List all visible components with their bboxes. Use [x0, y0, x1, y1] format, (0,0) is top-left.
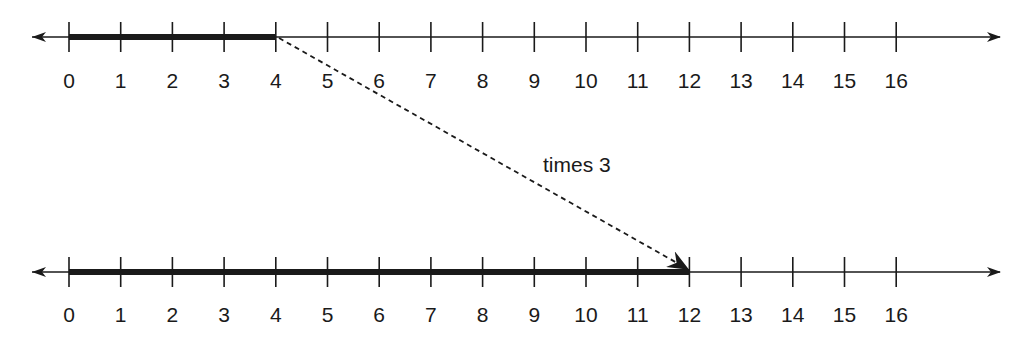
tick-label: 10	[574, 303, 597, 326]
tick-label: 15	[833, 69, 856, 92]
bottom-number-line: 012345678910111213141516	[32, 257, 1001, 326]
tick-label: 9	[528, 303, 540, 326]
tick-label: 6	[373, 303, 385, 326]
tick-label: 9	[528, 69, 540, 92]
tick-label: 11	[627, 303, 649, 326]
tick-label: 4	[270, 303, 282, 326]
tick-label: 15	[833, 303, 856, 326]
tick-label: 6	[373, 69, 385, 92]
tick-label: 7	[425, 303, 437, 326]
tick-label: 4	[270, 69, 282, 92]
tick-label: 5	[322, 69, 334, 92]
tick-label: 14	[781, 69, 805, 92]
tick-label: 14	[781, 303, 805, 326]
tick-label: 3	[218, 69, 230, 92]
tick-label: 0	[63, 303, 75, 326]
tick-label: 10	[574, 69, 597, 92]
tick-label: 2	[167, 69, 179, 92]
number-line-diagram: 012345678910111213141516 012345678910111…	[0, 0, 1023, 344]
tick-label: 8	[477, 69, 489, 92]
tick-label: 1	[115, 303, 127, 326]
tick-label: 12	[678, 69, 701, 92]
tick-label: 0	[63, 69, 75, 92]
tick-label: 8	[477, 303, 489, 326]
tick-label: 16	[885, 303, 908, 326]
tick-label: 5	[322, 303, 334, 326]
tick-label: 7	[425, 69, 437, 92]
tick-label: 16	[885, 69, 908, 92]
top-number-line: 012345678910111213141516	[32, 22, 1001, 92]
tick-label: 12	[678, 303, 701, 326]
tick-label: 3	[218, 303, 230, 326]
tick-label: 2	[167, 303, 179, 326]
tick-label: 13	[729, 69, 752, 92]
arrow-label: times 3	[543, 153, 611, 176]
tick-label: 11	[627, 69, 649, 92]
tick-label: 13	[729, 303, 752, 326]
tick-label: 1	[115, 69, 127, 92]
